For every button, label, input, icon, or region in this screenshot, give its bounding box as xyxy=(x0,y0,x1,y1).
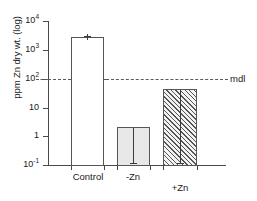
error-bar-minus-zn-line xyxy=(133,128,134,164)
mdl-line-stub xyxy=(36,79,48,80)
y-tick-10e3 xyxy=(43,50,49,51)
chart-figure: ppm Zn dry wt. (log) 104 103 102 10 1 10… xyxy=(0,0,257,201)
y-tick-1 xyxy=(43,136,49,137)
y-tick-label-10-base: 10 xyxy=(29,102,39,112)
y-tick-10e4 xyxy=(43,21,49,22)
x-tick-5 xyxy=(163,166,164,170)
x-tick-2 xyxy=(104,166,105,170)
y-tick-label-10e3: 103 xyxy=(25,45,39,54)
y-tick-label-10e2-base: 10 xyxy=(25,73,35,83)
y-tick-10e-1 xyxy=(43,165,49,166)
error-bar-minus-zn-cap xyxy=(130,163,137,164)
x-label-minus-zn: -Zn xyxy=(110,172,156,183)
y-tick-label-10: 10 xyxy=(29,103,39,112)
x-tick-3 xyxy=(117,166,118,170)
error-bar-plus-zn-cap xyxy=(177,163,184,164)
x-tick-1 xyxy=(71,166,72,170)
y-tick-label-10e4-exp: 4 xyxy=(35,13,39,20)
error-bar-control-cap xyxy=(84,36,91,37)
x-label-plus-zn: +Zn pair fed xyxy=(155,172,205,201)
x-label-control: Control xyxy=(60,172,116,183)
x-tick-6 xyxy=(197,166,198,170)
y-tick-label-10e3-base: 10 xyxy=(25,44,35,54)
y-tick-label-1-base: 1 xyxy=(34,130,39,140)
y-axis-line xyxy=(48,21,49,166)
y-tick-10 xyxy=(43,108,49,109)
x-tick-4 xyxy=(150,166,151,170)
error-bar-control-line xyxy=(87,34,88,40)
y-tick-label-10e4: 104 xyxy=(25,16,39,25)
y-tick-label-10e4-base: 10 xyxy=(25,15,35,25)
y-axis-title: ppm Zn dry wt. (log) xyxy=(11,0,22,128)
y-tick-label-10e3-exp: 3 xyxy=(35,42,39,49)
y-tick-label-10e-1: 10-1 xyxy=(23,160,39,169)
y-tick-label-10e2-exp: 2 xyxy=(35,71,39,78)
error-bar-plus-zn-line xyxy=(180,90,181,164)
y-tick-label-10e-1-exp: -1 xyxy=(33,157,39,164)
mdl-label: mdl xyxy=(230,73,245,84)
x-label-plus-zn-line1: +Zn xyxy=(155,183,205,194)
mdl-line-right xyxy=(106,79,228,80)
bar-control[interactable] xyxy=(71,37,104,166)
y-tick-label-10e-1-base: 10 xyxy=(23,159,33,169)
y-tick-label-1: 1 xyxy=(34,131,39,140)
